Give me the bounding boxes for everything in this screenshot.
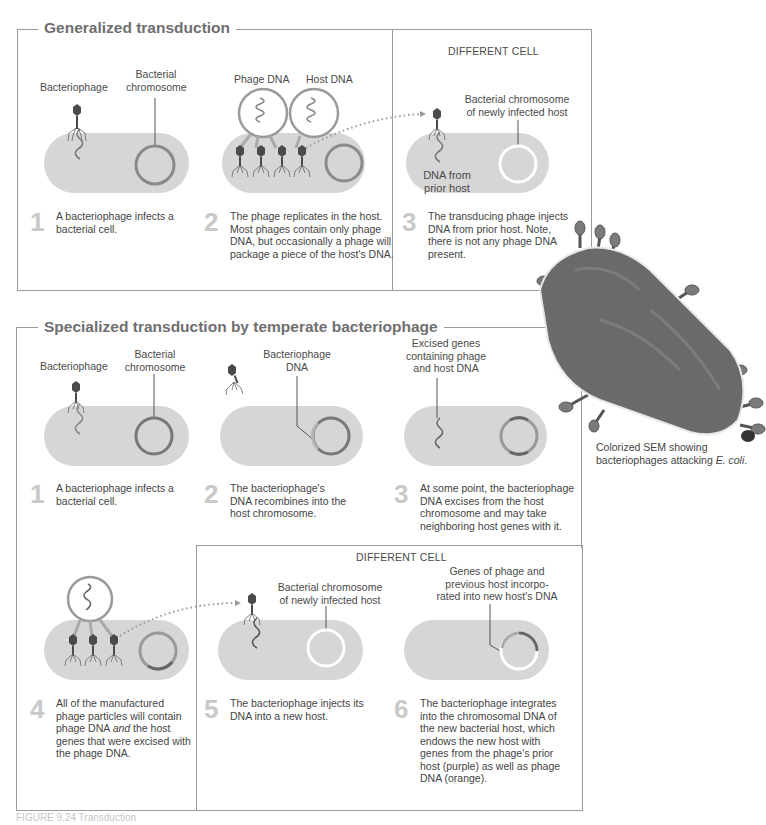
figure-caption: FIGURE 9.24 Transduction — [16, 812, 136, 823]
sem-ecoli-image — [0, 0, 766, 825]
sem-caption: Colorized SEM showing bacteriophages att… — [596, 441, 747, 466]
